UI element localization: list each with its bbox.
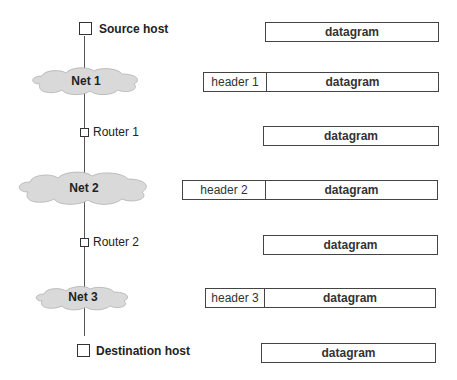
net2-label: Net 2 bbox=[64, 181, 104, 195]
packet-3: header 2 datagram bbox=[182, 180, 438, 200]
datagram-label: datagram bbox=[267, 73, 438, 91]
net1-label: Net 1 bbox=[66, 74, 106, 88]
datagram-label: datagram bbox=[264, 236, 437, 254]
datagram-label: datagram bbox=[266, 181, 437, 199]
router2-icon bbox=[80, 238, 89, 247]
datagram-label: datagram bbox=[264, 127, 438, 145]
packet-6: datagram bbox=[261, 343, 436, 363]
source-host-label: Source host bbox=[99, 22, 168, 36]
datagram-label: datagram bbox=[266, 23, 438, 41]
source-host-icon bbox=[79, 22, 92, 35]
packet-2: datagram bbox=[263, 126, 439, 146]
packet-5: header 3 datagram bbox=[205, 288, 436, 308]
router2-label: Router 2 bbox=[93, 235, 139, 249]
packet-4: datagram bbox=[263, 235, 438, 255]
packet-0: datagram bbox=[265, 22, 439, 42]
datagram-label: datagram bbox=[262, 344, 435, 362]
header-label: header 1 bbox=[204, 73, 267, 91]
packet-1: header 1 datagram bbox=[203, 72, 439, 92]
header-label: header 2 bbox=[183, 181, 266, 199]
router1-icon bbox=[80, 128, 89, 137]
destination-host-icon bbox=[77, 344, 90, 357]
router1-label: Router 1 bbox=[93, 125, 139, 139]
datagram-label: datagram bbox=[265, 289, 435, 307]
net3-label: Net 3 bbox=[63, 290, 103, 304]
destination-host-label: Destination host bbox=[96, 344, 190, 358]
header-label: header 3 bbox=[206, 289, 265, 307]
